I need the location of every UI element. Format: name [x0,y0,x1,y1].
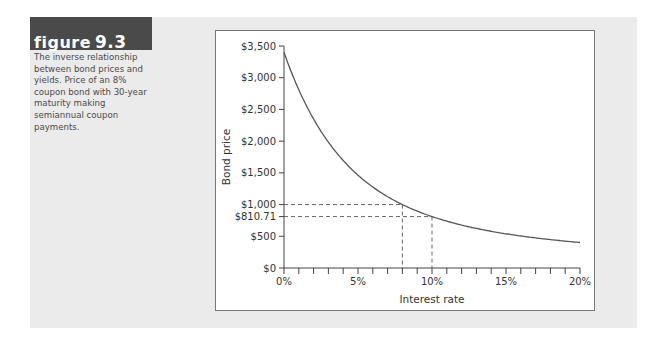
x-tick-label: 10% [421,276,443,287]
x-axis-title: Interest rate [399,293,464,305]
y-axis-title: Bond price [220,129,232,185]
price-curve [284,52,580,242]
x-tick-label: 15% [495,276,517,287]
x-tick-label: 20% [569,276,591,287]
y-tick-label: $500 [251,231,276,242]
x-tick-label: 5% [350,276,366,287]
x-tick-label: 0% [276,276,292,287]
y-tick-label: $1,500 [241,167,276,178]
y-tick-label: $0 [263,263,276,274]
y-tick-label: $1,000 [241,199,276,210]
y-tick-label: $2,500 [241,104,276,115]
y-tick-label: $3,500 [241,41,276,52]
y-tick-label: $3,000 [241,72,276,83]
bond-price-chart: $0$500$1,000$1,500$2,000$2,500$3,000$3,5… [0,0,667,339]
y-tick-label: $2,000 [241,136,276,147]
annotation-label: $810.71 [235,211,276,222]
